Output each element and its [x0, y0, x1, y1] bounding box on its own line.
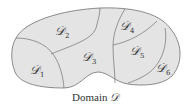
figure-caption: Domain 𝒟: [72, 91, 121, 103]
domain-diagram: 𝒟2 𝒟4 𝒟3 𝒟5 𝒟1 𝒟6 Domain 𝒟: [0, 0, 187, 106]
